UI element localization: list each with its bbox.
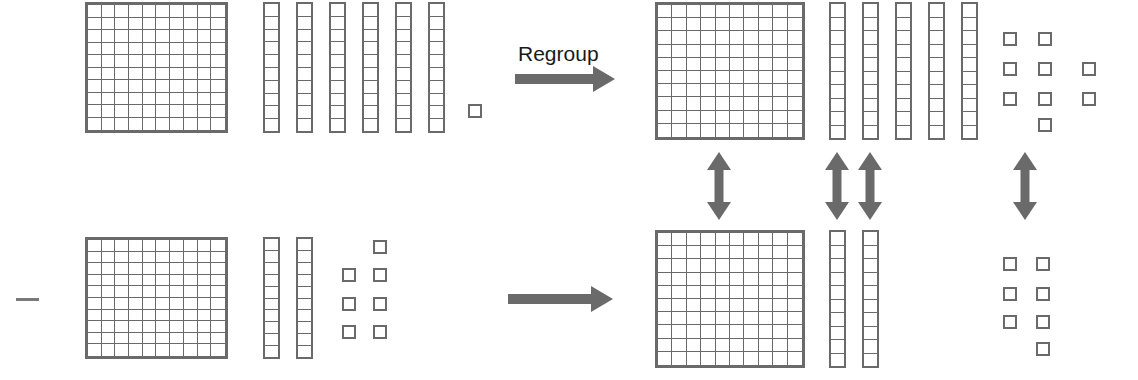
- rod-segment: [963, 126, 976, 139]
- hundreds-flat: [655, 2, 805, 140]
- flat-cell: [129, 105, 143, 118]
- tens-rod: [428, 2, 445, 133]
- flat-cell: [170, 68, 184, 81]
- arrow-head-down: [858, 202, 882, 220]
- rod-segment: [930, 72, 943, 86]
- flat-cell: [129, 263, 143, 275]
- rod-segment: [298, 334, 311, 346]
- rod-segment: [265, 251, 278, 263]
- flat-cell: [184, 275, 198, 287]
- flat-cell: [744, 339, 758, 352]
- flat-cell: [658, 111, 672, 124]
- rod-segment: [430, 68, 443, 81]
- flat-cell: [730, 97, 744, 110]
- flat-cell: [773, 18, 787, 31]
- flat-cell: [759, 5, 773, 18]
- flat-cell: [701, 352, 715, 365]
- flat-cell: [170, 18, 184, 31]
- arrow-shaft: [866, 166, 875, 206]
- flat-cell: [129, 43, 143, 56]
- flat-cell: [198, 18, 212, 31]
- flat-cell: [88, 298, 102, 310]
- flat-cell: [88, 18, 102, 31]
- rod-segment: [864, 313, 877, 327]
- flat-cell: [716, 299, 730, 312]
- flat-cell: [701, 286, 715, 299]
- rod-segment: [265, 17, 278, 30]
- ones-unit: [1082, 92, 1096, 106]
- flat-cell: [102, 43, 116, 56]
- arrow-head-down: [825, 202, 849, 220]
- regroup-vertical-arrow-hundreds: [706, 152, 732, 220]
- flat-cell: [156, 118, 170, 131]
- rod-segment: [430, 55, 443, 68]
- flat-cell: [198, 105, 212, 118]
- flat-cell: [88, 43, 102, 56]
- flat-cell: [88, 344, 102, 356]
- flat-cell: [658, 97, 672, 110]
- flat-cell: [773, 31, 787, 44]
- flat-cell: [143, 55, 157, 68]
- flat-cell: [716, 259, 730, 272]
- flat-cell: [129, 68, 143, 81]
- regroup-vertical-arrow-tens-2: [857, 152, 883, 220]
- flat-cell: [744, 325, 758, 338]
- flat-cell: [211, 321, 225, 333]
- flat-cell: [115, 286, 129, 298]
- rod-segment: [864, 340, 877, 354]
- flat-cell: [730, 111, 744, 124]
- arrow-shaft: [833, 166, 842, 206]
- flat-cell: [730, 273, 744, 286]
- flat-cell: [143, 240, 157, 252]
- flat-cell: [115, 30, 129, 43]
- flat-cell: [701, 312, 715, 325]
- flat-cell: [773, 325, 787, 338]
- rod-segment: [364, 94, 377, 107]
- rod-segment: [864, 72, 877, 86]
- tens-rod: [296, 237, 313, 359]
- rod-segment: [265, 239, 278, 251]
- flat-cell: [730, 31, 744, 44]
- rod-segment: [298, 310, 311, 322]
- flat-cell: [658, 5, 672, 18]
- flat-cell: [744, 299, 758, 312]
- rod-segment: [265, 299, 278, 311]
- flat-cell: [129, 80, 143, 93]
- flat-cell: [102, 275, 116, 287]
- rod-segment: [265, 263, 278, 275]
- flat-cell: [687, 124, 701, 137]
- rod-segment: [963, 18, 976, 32]
- flat-cell: [788, 352, 802, 365]
- ones-unit: [1003, 62, 1017, 76]
- flat-cell: [143, 333, 157, 345]
- flat-cell: [701, 233, 715, 246]
- rod-segment: [430, 4, 443, 17]
- flat-cell: [716, 18, 730, 31]
- rod-segment: [864, 112, 877, 126]
- flat-cell: [759, 111, 773, 124]
- flat-cell: [211, 55, 225, 68]
- flat-cell: [658, 45, 672, 58]
- rod-segment: [298, 81, 311, 94]
- flat-cell: [687, 71, 701, 84]
- flat-cell: [672, 233, 686, 246]
- flat-cell: [129, 240, 143, 252]
- arrow-head: [591, 286, 613, 312]
- flat-cell: [198, 30, 212, 43]
- flat-cell: [211, 344, 225, 356]
- flat-cell: [129, 321, 143, 333]
- rod-segment: [930, 45, 943, 59]
- flat-cell: [170, 118, 184, 131]
- flat-cell: [744, 58, 758, 71]
- flat-cell: [88, 105, 102, 118]
- flat-cell: [198, 55, 212, 68]
- rod-segment: [864, 126, 877, 139]
- base-ten-blocks-diagram: Regroup: [0, 0, 1138, 380]
- rod-segment: [331, 17, 344, 30]
- rod-segment: [897, 4, 910, 18]
- flat-cell: [773, 71, 787, 84]
- flat-cell: [744, 5, 758, 18]
- rod-segment: [298, 346, 311, 357]
- ones-unit: [1038, 62, 1052, 76]
- flat-cell: [129, 30, 143, 43]
